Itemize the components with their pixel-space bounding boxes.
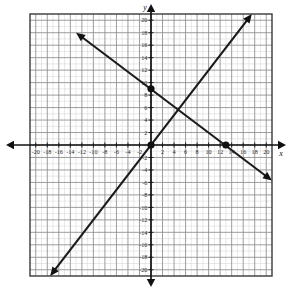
x-tick-label: 10 — [206, 148, 212, 155]
x-tick-label: 2 — [161, 148, 164, 155]
x-tick-label: 12 — [217, 148, 223, 155]
y-tick-label: 18 — [141, 29, 147, 36]
point-origin — [147, 141, 154, 148]
x-axis-label: x — [278, 149, 283, 158]
coordinate-plane: -20-18-16-14-12-10-8-6-4-224681012141618… — [0, 0, 292, 291]
x-tick-label: -4 — [125, 148, 130, 155]
y-tick-label: -12 — [139, 216, 147, 223]
y-axis-label: y — [142, 3, 147, 12]
graph-figure: -20-18-16-14-12-10-8-6-4-224681012141618… — [0, 0, 292, 291]
x-tick-label: -8 — [102, 148, 107, 155]
y-tick-label: 12 — [141, 66, 147, 73]
y-tick-label: 6 — [144, 104, 147, 111]
x-tick-label: 20 — [263, 148, 269, 155]
y-tick-label: -16 — [139, 241, 147, 248]
x-tick-label: 18 — [252, 148, 258, 155]
x-tick-label: -16 — [55, 148, 63, 155]
x-tick-label: 4 — [173, 148, 176, 155]
y-tick-label: -18 — [139, 253, 147, 260]
x-tick-label: -20 — [32, 148, 40, 155]
x-tick-label: 16 — [240, 148, 246, 155]
x-tick-label: -18 — [43, 148, 51, 155]
x-tick-label: 8 — [196, 148, 199, 155]
x-tick-label: -6 — [114, 148, 119, 155]
y-tick-label: -6 — [142, 179, 147, 186]
x-tick-label: -12 — [78, 148, 86, 155]
y-tick-label: -4 — [142, 166, 147, 173]
y-tick-label: 16 — [141, 41, 147, 48]
y-tick-label: -8 — [142, 191, 147, 198]
y-tick-label: 4 — [144, 116, 147, 123]
x-tick-label: 6 — [184, 148, 187, 155]
y-tick-label: 8 — [144, 91, 147, 98]
y-tick-label: 14 — [141, 54, 147, 61]
point-y-intercept — [147, 85, 154, 92]
x-tick-label: -10 — [89, 148, 97, 155]
y-tick-label: 20 — [141, 16, 147, 23]
y-tick-label: -20 — [139, 266, 147, 273]
y-tick-label: -10 — [139, 204, 147, 211]
x-tick-label: -14 — [66, 148, 74, 155]
y-tick-label: 2 — [144, 129, 147, 136]
point-x-intercept — [222, 141, 229, 148]
y-tick-label: -14 — [139, 229, 147, 236]
